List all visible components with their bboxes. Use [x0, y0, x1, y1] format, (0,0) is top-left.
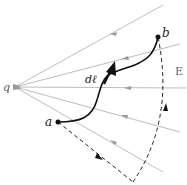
field-label: E — [175, 65, 183, 78]
field-diagram: q dℓ a b E — [0, 0, 187, 185]
field-line — [15, 87, 180, 132]
solid-path — [58, 37, 158, 122]
point-a-label: a — [45, 115, 52, 129]
charge-q: q — [3, 81, 20, 94]
field-arrow-icon — [121, 115, 128, 119]
dashed-path-arrow-icon — [95, 153, 103, 160]
point-a — [56, 120, 61, 125]
field-arrows — [110, 32, 131, 145]
point-b-label: b — [162, 26, 170, 40]
field-line — [15, 44, 180, 87]
dl-arrow — [104, 61, 116, 84]
charge-label: q — [3, 81, 10, 94]
dashed-path — [58, 37, 163, 182]
point-b — [156, 35, 161, 40]
field-line — [15, 87, 163, 172]
field-arrow-icon — [124, 86, 131, 90]
dl-label: dℓ — [85, 73, 97, 86]
dashed-path-arrow-icon — [163, 103, 168, 111]
